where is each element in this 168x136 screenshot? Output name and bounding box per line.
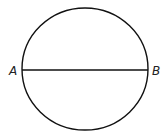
circle — [22, 8, 148, 130]
point-label-b: B — [152, 64, 160, 78]
circle-diagram: A B — [0, 0, 168, 136]
point-label-a: A — [8, 64, 17, 78]
